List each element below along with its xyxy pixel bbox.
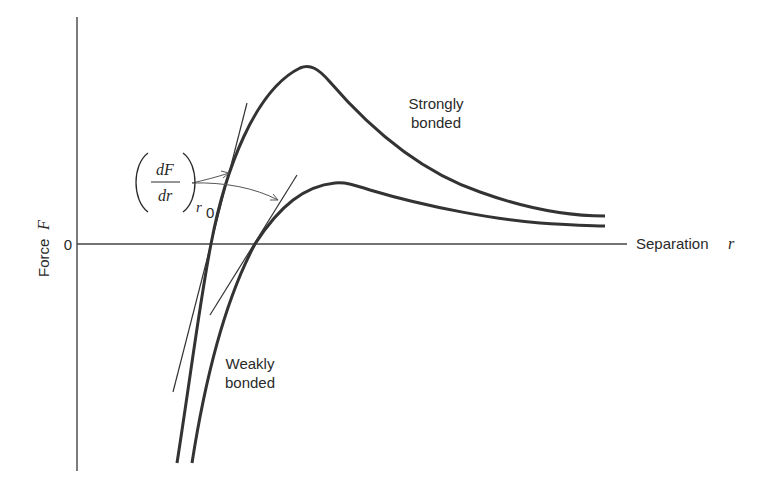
zero-label: 0 <box>64 236 72 253</box>
strongly-bonded-label-line2: bonded <box>411 114 461 131</box>
weakly-bonded-curve <box>192 183 605 463</box>
annotation-subscript: r <box>196 199 202 215</box>
tangent-line-strong <box>173 103 247 392</box>
y-axis-label-text: Force <box>35 239 52 277</box>
y-axis-symbol: F <box>35 220 52 231</box>
x-axis-symbol: r <box>728 235 735 252</box>
annotation-subscript-index: 0 <box>206 204 214 221</box>
weakly-bonded-label-line1: Weakly <box>226 355 275 372</box>
y-axis-label: Force F <box>35 220 52 277</box>
annotation-arrow-weak <box>192 183 278 200</box>
annotation-numerator: dF <box>156 161 174 178</box>
strongly-bonded-label-line1: Strongly <box>408 95 464 112</box>
x-axis-label-text: Separation <box>636 235 709 252</box>
weakly-bonded-label-line2: bonded <box>225 374 275 391</box>
force-separation-diagram: dF dr r 0 Strongly bonded Weakly bonded … <box>0 0 776 486</box>
x-axis-label: Separation r <box>636 235 735 252</box>
derivative-annotation: dF dr r 0 <box>136 153 214 221</box>
annotation-denominator: dr <box>158 187 173 204</box>
